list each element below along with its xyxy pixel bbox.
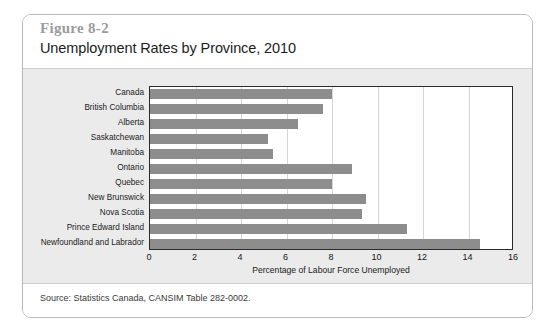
category-label: Saskatchewan (91, 133, 144, 143)
category-label: British Columbia (84, 103, 144, 113)
x-tick-label: 12 (417, 252, 427, 262)
bar (150, 134, 268, 144)
bar (150, 209, 362, 219)
bar (150, 194, 366, 204)
chart-panel: CanadaBritish ColumbiaAlbertaSaskatchewa… (23, 68, 532, 284)
category-label: New Brunswick (88, 193, 144, 203)
bar-row (150, 117, 512, 132)
x-tick-label: 16 (508, 252, 518, 262)
bar (150, 104, 323, 114)
x-tick-label: 6 (283, 252, 288, 262)
value-axis-ticks: 0246810121416 (149, 252, 513, 266)
category-label: Canada (115, 88, 144, 98)
category-label: Manitoba (110, 148, 144, 158)
category-label: Newfoundland and Labrador (41, 238, 144, 248)
bar (150, 164, 352, 174)
source-strip: Source: Statistics Canada, CANSIM Table … (23, 284, 532, 318)
x-tick-label: 2 (192, 252, 197, 262)
category-label: Alberta (118, 118, 144, 128)
bar-row (150, 191, 512, 206)
figure-card: Figure 8-2 Unemployment Rates by Provinc… (22, 14, 533, 318)
x-tick-label: 14 (462, 252, 472, 262)
x-tick-label: 10 (371, 252, 381, 262)
x-tick-label: 0 (146, 252, 151, 262)
category-axis-labels: CanadaBritish ColumbiaAlbertaSaskatchewa… (23, 86, 147, 250)
category-label: Quebec (115, 178, 144, 188)
bar-row (150, 102, 512, 117)
plot-area (149, 86, 513, 250)
figure-header: Figure 8-2 Unemployment Rates by Provinc… (23, 15, 532, 68)
bar (150, 119, 298, 129)
x-tick-label: 4 (237, 252, 242, 262)
x-tick-label: 8 (328, 252, 333, 262)
bar-row (150, 221, 512, 236)
bar-row (150, 87, 512, 102)
bar-row (150, 147, 512, 162)
bar (150, 239, 480, 249)
bar (150, 149, 273, 159)
bar-row (150, 132, 512, 147)
figure-title: Unemployment Rates by Province, 2010 (40, 40, 296, 56)
category-label: Prince Edward Island (67, 223, 144, 233)
figure-number: Figure 8-2 (40, 20, 109, 37)
bar (150, 224, 407, 234)
bar-row (150, 176, 512, 191)
category-label: Nova Scotia (100, 208, 144, 218)
x-axis-label: Percentage of Labour Force Unemployed (149, 265, 513, 275)
bar-row (150, 236, 512, 251)
category-label: Ontario (117, 163, 144, 173)
bar-row (150, 162, 512, 177)
bar (150, 89, 332, 99)
bar-row (150, 206, 512, 221)
source-note: Source: Statistics Canada, CANSIM Table … (40, 293, 250, 303)
bar (150, 179, 332, 189)
